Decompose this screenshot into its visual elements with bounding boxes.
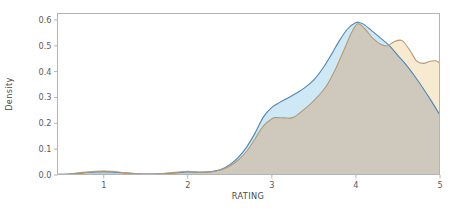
y-axis-ticks: 0.00.10.20.30.40.50.6 xyxy=(38,15,57,180)
y-axis-title: Density xyxy=(4,77,14,111)
density-plot-figure: 12345 0.00.10.20.30.40.50.6 RATING Densi… xyxy=(0,0,455,208)
y-tick-label: 0.2 xyxy=(38,118,51,128)
x-tick-label: 1 xyxy=(101,180,106,190)
y-tick-label: 0.5 xyxy=(38,41,51,51)
x-axis-ticks: 12345 xyxy=(101,175,442,190)
x-axis-title: RATING xyxy=(232,191,264,201)
y-tick-label: 0.4 xyxy=(38,67,51,77)
x-tick-label: 5 xyxy=(437,180,442,190)
x-tick-label: 2 xyxy=(185,180,190,190)
y-tick-label: 0.0 xyxy=(38,170,51,180)
x-tick-label: 3 xyxy=(269,180,274,190)
plot-canvas: 12345 0.00.10.20.30.40.50.6 RATING Densi… xyxy=(0,0,455,208)
y-tick-label: 0.6 xyxy=(38,15,51,25)
x-tick-label: 4 xyxy=(353,180,358,190)
y-tick-label: 0.1 xyxy=(38,144,51,154)
y-tick-label: 0.3 xyxy=(38,92,51,102)
